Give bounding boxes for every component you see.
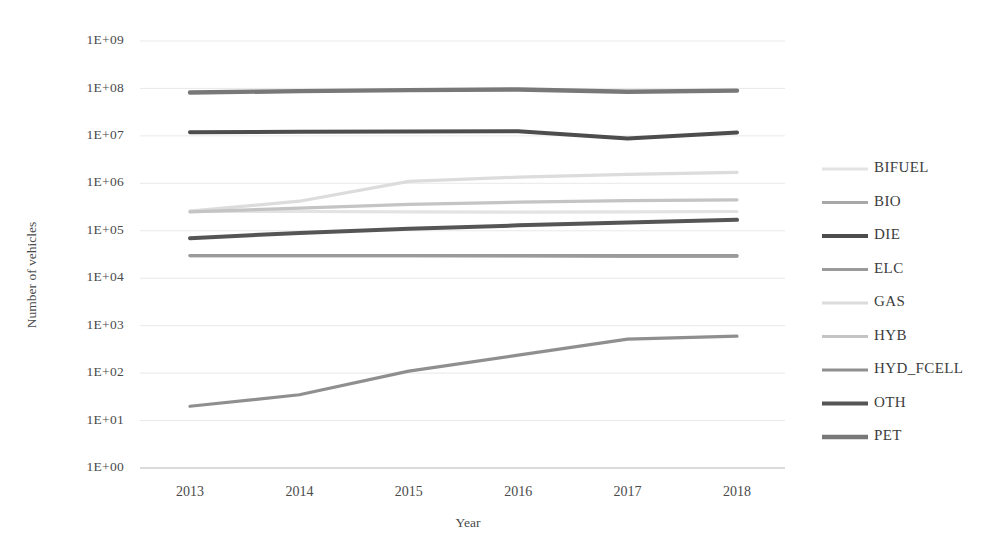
x-axis-tick-label: 2013	[176, 484, 204, 499]
x-axis-tick-label: 2016	[504, 484, 532, 499]
series-line-pet	[190, 90, 737, 93]
y-axis-tick-label: 1E+04	[86, 269, 124, 284]
legend-label-die[interactable]: DIE	[874, 226, 900, 242]
x-axis-tick-label: 2018	[723, 484, 751, 499]
legend-label-oth[interactable]: OTH	[874, 394, 906, 410]
y-axis-tick-labels: 1E+091E+081E+071E+061E+051E+041E+031E+02…	[86, 32, 124, 474]
y-axis-tick-label: 1E+07	[86, 127, 124, 142]
y-axis-tick-label: 1E+05	[86, 222, 124, 237]
chart-canvas: 1E+091E+081E+071E+061E+051E+041E+031E+02…	[0, 0, 1008, 554]
legend: BIFUELBIODIEELCGASHYBHYD_FCELLOTHPET	[822, 159, 963, 443]
x-axis-tick-label: 2015	[395, 484, 423, 499]
series-line-gas	[190, 172, 737, 211]
y-axis-tick-label: 1E+09	[86, 32, 124, 47]
line-chart: 1E+091E+081E+071E+061E+051E+041E+031E+02…	[0, 0, 1008, 554]
y-axis-tick-label: 1E+02	[86, 364, 124, 379]
series-line-oth	[190, 220, 737, 238]
legend-label-bifuel[interactable]: BIFUEL	[874, 159, 929, 175]
y-axis-tick-label: 1E+03	[86, 317, 124, 332]
y-axis-tick-label: 1E+00	[86, 459, 124, 474]
x-axis-tick-label: 2014	[285, 484, 313, 499]
y-axis-tick-label: 1E+01	[86, 412, 124, 427]
legend-label-gas[interactable]: GAS	[874, 293, 905, 309]
legend-label-elc[interactable]: ELC	[874, 260, 904, 276]
y-axis-title: Number of vehicles	[24, 222, 39, 328]
series-line-bifuel	[190, 211, 737, 212]
x-axis-title: Year	[456, 515, 481, 530]
legend-label-hyd_fcell[interactable]: HYD_FCELL	[874, 360, 963, 376]
series-line-hyb	[190, 200, 737, 212]
y-axis-tick-label: 1E+08	[86, 80, 124, 95]
legend-label-hyb[interactable]: HYB	[874, 327, 907, 343]
series-line-die	[190, 131, 737, 138]
series-line-hyd_fcell	[190, 336, 737, 406]
y-axis-tick-label: 1E+06	[86, 174, 124, 189]
x-axis-tick-labels: 201320142015201620172018	[176, 484, 751, 499]
legend-label-bio[interactable]: BIO	[874, 193, 901, 209]
x-axis-tick-label: 2017	[614, 484, 642, 499]
legend-label-pet[interactable]: PET	[874, 427, 902, 443]
series-lines	[190, 90, 737, 407]
